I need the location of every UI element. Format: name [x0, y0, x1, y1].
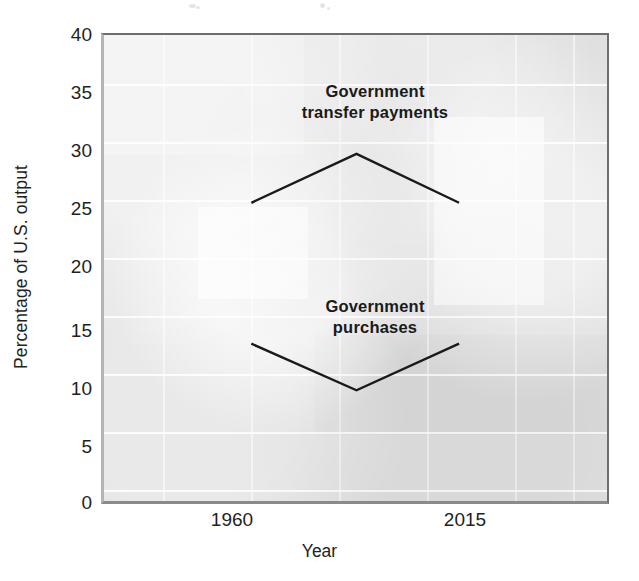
y-axis-title: Percentage of U.S. output	[8, 97, 34, 437]
x-axis-title: Year	[0, 541, 639, 562]
y-tick-15: 15	[36, 321, 92, 340]
y-tick-25: 25	[36, 199, 92, 218]
scan-speck	[327, 7, 330, 10]
x-tick-1960: 1960	[172, 509, 292, 531]
plot-area: Government transfer payments Government …	[101, 33, 609, 504]
line-government-purchases	[251, 344, 459, 391]
scan-speck	[320, 3, 325, 8]
y-tick-20: 20	[36, 257, 92, 276]
chart-figure: Percentage of U.S. output 40 35 30 25 20…	[0, 0, 639, 581]
scan-speck	[196, 6, 200, 9]
y-tick-5: 5	[36, 437, 92, 456]
series-label-transfer-payments: Government transfer payments	[260, 81, 490, 123]
y-tick-10: 10	[36, 379, 92, 398]
x-tick-2015: 2015	[405, 509, 525, 531]
y-axis-tick-labels: 40 35 30 25 20 15 10 5 0	[34, 0, 92, 581]
line-government-transfer-payments	[251, 154, 459, 203]
y-tick-40: 40	[36, 25, 92, 44]
series-label-purchases: Government purchases	[270, 296, 480, 338]
y-tick-30: 30	[36, 141, 92, 160]
y-tick-0: 0	[36, 493, 92, 512]
y-tick-35: 35	[36, 83, 92, 102]
scan-speck	[189, 4, 196, 8]
